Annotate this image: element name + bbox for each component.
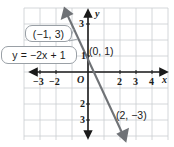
callout-equation: y = −2x + 1 [1, 46, 77, 64]
graph-canvas [0, 0, 174, 147]
point-label-intercept: (0, 1) [89, 46, 114, 57]
callout-point-a: (−1, 3) [25, 25, 72, 42]
origin-label: O [77, 75, 84, 85]
x-tick-4: 4 [149, 77, 154, 87]
y-tick-neg2: 2 [80, 99, 85, 109]
x-tick-neg3: −3 [33, 77, 44, 87]
x-tick-3: 3 [133, 77, 138, 87]
y-tick-3: 3 [79, 19, 84, 29]
callout-point-a-text: (−1, 3) [33, 28, 64, 40]
y-axis-label: y [95, 9, 99, 19]
x-tick-2: 2 [117, 77, 122, 87]
point-label-point-b: (2, −3) [116, 110, 147, 121]
callout-equation-text: y = −2x + 1 [12, 49, 65, 61]
coordinate-graph-figure: y x O −3 −2 2 3 4 3 1 2 3 (0, 1) (2, −3)… [0, 0, 174, 147]
y-tick-1: 1 [81, 51, 86, 61]
y-tick-neg3: 3 [80, 115, 85, 125]
x-axis-label: x [162, 75, 167, 85]
x-tick-neg2: −2 [49, 77, 60, 87]
